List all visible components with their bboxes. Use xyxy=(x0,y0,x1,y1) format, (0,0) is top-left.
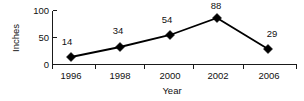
x-axis-title: Year xyxy=(162,85,181,96)
y-tick-label-50: 50 xyxy=(38,32,49,43)
data-point-1998 xyxy=(116,43,125,52)
data-point-2002 xyxy=(213,14,222,23)
y-tick-label-100: 100 xyxy=(33,5,49,16)
data-point-1996 xyxy=(67,53,76,62)
data-label-2000: 54 xyxy=(162,14,173,25)
x-tick-label-2006: 2006 xyxy=(258,70,279,81)
y-axis-title: Inches xyxy=(10,24,21,52)
data-label-1996: 14 xyxy=(62,36,73,47)
x-tick-label-1996: 1996 xyxy=(60,70,81,81)
data-label-1998: 34 xyxy=(113,25,124,36)
line-chart: 100 50 0 Inches 1996 1998 2000 2002 2006… xyxy=(0,0,304,101)
chart-canvas: 100 50 0 Inches 1996 1998 2000 2002 2006… xyxy=(0,0,304,101)
data-point-2000 xyxy=(166,31,175,40)
x-tick-label-2002: 2002 xyxy=(207,70,228,81)
x-tick-label-2000: 2000 xyxy=(159,70,180,81)
data-point-2006 xyxy=(264,45,273,54)
y-tick-label-0: 0 xyxy=(44,59,49,70)
data-label-2002: 88 xyxy=(211,0,222,11)
x-tick-label-1998: 1998 xyxy=(109,70,130,81)
data-label-2006: 29 xyxy=(267,28,278,39)
